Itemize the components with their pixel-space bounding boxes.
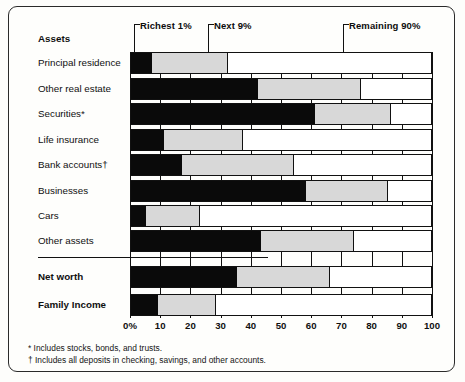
bar-row (130, 154, 432, 176)
gridline-100 (432, 52, 433, 318)
legend-label-richest-1: Richest 1% (140, 20, 192, 31)
bar-row (130, 52, 432, 74)
row-label: Net worth (38, 271, 83, 282)
footnotes: * Includes stocks, bonds, and trusts. † … (28, 343, 266, 366)
bar-segment-richest-1 (131, 104, 315, 124)
bar-segment-richest-1 (131, 231, 261, 251)
x-tick-label: 10 (155, 320, 166, 331)
row-label: Securities* (38, 108, 85, 119)
legend-label-next-9: Next 9% (214, 20, 252, 31)
bar-segment-next-9 (182, 155, 294, 175)
x-tick-label: 30 (215, 320, 226, 331)
bar-segment-richest-1 (131, 155, 182, 175)
bar-row (130, 129, 432, 151)
x-tick-label: 90 (396, 320, 407, 331)
row-label: Life insurance (38, 134, 99, 145)
bar-segment-richest-1 (131, 206, 146, 226)
bar-row (130, 180, 432, 202)
bar-segment-next-9 (164, 130, 243, 150)
bar-row (130, 266, 432, 288)
x-tick-label: 50 (276, 320, 287, 331)
row-label: Principal residence (38, 57, 121, 68)
footnote-asterisk: * Includes stocks, bonds, and trusts. (28, 343, 266, 355)
section-header-assets: Assets (38, 33, 70, 44)
bar-row (130, 294, 432, 316)
bar-segment-richest-1 (131, 79, 258, 99)
bar-segment-next-9 (315, 104, 391, 124)
legend-label-remaining-90: Remaining 90% (349, 20, 421, 31)
bar-segment-next-9 (258, 79, 361, 99)
x-tick-label: 60 (306, 320, 317, 331)
row-label: Family Income (38, 299, 106, 310)
leader-line-next-9 (208, 24, 214, 52)
row-label: Bank accounts† (38, 159, 108, 170)
row-label: Cars (38, 210, 59, 221)
bar-row (130, 78, 432, 100)
bar-segment-next-9 (261, 231, 355, 251)
chart-figure: Richest 1% Next 9% Remaining 90% Assets … (0, 0, 465, 382)
bar-segment-richest-1 (131, 295, 158, 315)
leader-line-remaining-90 (343, 24, 349, 52)
footnote-dagger: † Includes all deposits in checking, sav… (28, 355, 266, 367)
bar-row (130, 205, 432, 227)
x-tick-label: 20 (185, 320, 196, 331)
bar-segment-next-9 (306, 181, 388, 201)
x-axis: 0%102030405060708090100 (130, 320, 432, 334)
plot-area (130, 52, 432, 318)
x-tick-label: 40 (245, 320, 256, 331)
row-label-column: Assets Principal residenceOther real est… (0, 0, 130, 382)
x-tick-label: 100 (424, 320, 440, 331)
x-tick-label: 70 (336, 320, 347, 331)
leader-line-richest-1 (134, 24, 140, 52)
bar-row (130, 103, 432, 125)
x-tick-label: 80 (366, 320, 377, 331)
bar-segment-richest-1 (131, 267, 237, 287)
bar-segment-richest-1 (131, 130, 164, 150)
bar-segment-next-9 (237, 267, 331, 287)
row-label: Businesses (38, 185, 88, 196)
bar-segment-next-9 (146, 206, 200, 226)
x-tick-label: 0% (123, 320, 137, 331)
row-label: Other assets (38, 235, 94, 246)
bar-row (130, 230, 432, 252)
bar-segment-next-9 (158, 295, 215, 315)
row-label: Other real estate (38, 83, 111, 94)
bar-segment-richest-1 (131, 53, 152, 73)
bar-segment-richest-1 (131, 181, 306, 201)
bar-segment-next-9 (152, 53, 228, 73)
